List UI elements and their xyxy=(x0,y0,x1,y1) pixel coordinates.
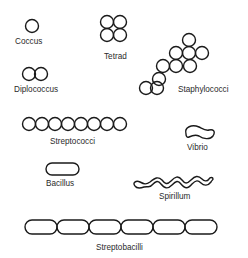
spirillum-label: Spirillum xyxy=(159,193,190,201)
streptobacilli-shape xyxy=(25,220,217,234)
coccus-label: Coccus xyxy=(15,38,42,46)
spirillum-shape xyxy=(134,176,213,188)
vibrio-label: Vibrio xyxy=(187,144,208,152)
diplococcus-shape xyxy=(23,68,48,81)
diplococcus-label: Diplococcus xyxy=(14,86,58,94)
coccus-shape xyxy=(26,20,39,33)
streptococci-shape xyxy=(23,118,127,131)
streptobacilli-label: Streptobacilli xyxy=(96,244,143,252)
staphylococci-label: Staphylococci xyxy=(178,86,229,94)
bacteria-morphology-diagram: Coccus Tetrad Diplococcus Staphylococci … xyxy=(0,0,248,258)
bacillus-label: Bacillus xyxy=(46,180,74,188)
vibrio-shape xyxy=(186,126,215,139)
tetrad-label: Tetrad xyxy=(104,53,127,61)
streptococci-label: Streptococci xyxy=(50,138,95,146)
tetrad-shape xyxy=(101,16,127,42)
bacillus-shape xyxy=(46,163,79,175)
